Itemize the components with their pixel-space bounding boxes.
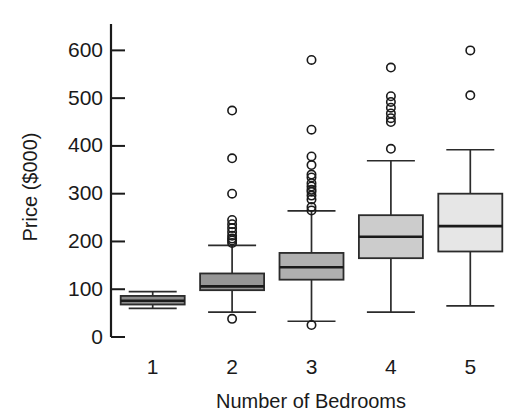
y-tick-label: 400 xyxy=(68,133,103,156)
y-tick-label: 300 xyxy=(68,181,103,204)
x-tick-label: 1 xyxy=(147,355,159,378)
y-tick-label: 200 xyxy=(68,229,103,252)
outlier-point xyxy=(228,189,236,197)
outlier-point xyxy=(228,106,236,114)
outlier-point xyxy=(387,92,395,100)
boxplot-box-2 xyxy=(200,106,264,323)
y-axis-title: Price ($000) xyxy=(19,133,41,242)
y-axis-group: 0100200300400500600 xyxy=(68,24,125,348)
outlier-point xyxy=(228,154,236,162)
outlier-point xyxy=(307,321,315,329)
outlier-point xyxy=(307,161,315,169)
outlier-point xyxy=(387,63,395,71)
box-iqr xyxy=(200,273,264,290)
x-tick-label: 3 xyxy=(306,355,318,378)
x-tick-label-group: 12345 xyxy=(147,355,476,378)
box-iqr xyxy=(438,194,502,252)
y-tick-label: 600 xyxy=(68,38,103,61)
outlier-point xyxy=(466,46,474,54)
y-tick-label: 100 xyxy=(68,277,103,300)
boxplot-canvas: 0100200300400500600 12345 Number of Bedr… xyxy=(0,0,527,416)
boxplot-box-4 xyxy=(359,63,423,312)
x-tick-label: 4 xyxy=(385,355,397,378)
box-series-group xyxy=(121,46,503,329)
boxplot-chart: 0100200300400500600 12345 Number of Bedr… xyxy=(0,0,527,416)
outlier-point xyxy=(466,91,474,99)
outlier-point xyxy=(228,315,236,323)
outlier-point xyxy=(307,56,315,64)
y-tick-label: 0 xyxy=(91,325,103,348)
y-tick-group: 0100200300400500600 xyxy=(68,38,125,348)
boxplot-box-1 xyxy=(121,292,185,309)
outlier-point xyxy=(387,145,395,153)
x-axis-title: Number of Bedrooms xyxy=(216,390,406,412)
outlier-point xyxy=(307,125,315,133)
boxplot-box-3 xyxy=(280,56,344,330)
x-tick-label: 2 xyxy=(226,355,238,378)
x-tick-label: 5 xyxy=(464,355,476,378)
y-tick-label: 500 xyxy=(68,86,103,109)
outlier-point xyxy=(307,152,315,160)
boxplot-box-5 xyxy=(438,46,502,306)
